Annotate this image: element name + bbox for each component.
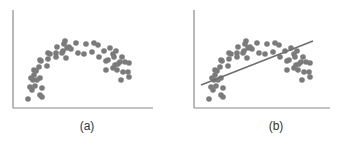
- data-point: [220, 94, 226, 100]
- data-point: [226, 50, 232, 56]
- data-point: [244, 55, 250, 61]
- data-point: [264, 41, 270, 47]
- data-point: [68, 46, 74, 52]
- data-point: [105, 57, 111, 63]
- data-point: [63, 55, 69, 61]
- data-point: [44, 63, 50, 69]
- data-point: [103, 67, 109, 73]
- chart-panel-a: (a): [0, 0, 174, 141]
- data-point: [53, 50, 59, 56]
- data-point: [37, 75, 43, 81]
- data-point: [81, 51, 87, 57]
- data-point: [111, 54, 117, 60]
- data-point: [37, 57, 43, 63]
- data-point: [212, 67, 218, 73]
- data-point: [234, 50, 240, 56]
- data-point: [218, 57, 224, 63]
- data-point: [226, 56, 232, 62]
- data-point: [45, 56, 51, 62]
- data-point: [75, 50, 81, 56]
- data-point: [256, 50, 262, 56]
- data-point: [284, 67, 290, 73]
- data-point: [300, 54, 306, 60]
- data-point: [126, 74, 132, 80]
- data-point: [125, 69, 131, 75]
- data-point: [39, 85, 45, 91]
- data-point: [292, 54, 298, 60]
- data-point: [295, 67, 301, 73]
- data-point: [306, 69, 312, 75]
- data-point: [119, 54, 125, 60]
- data-point: [39, 94, 45, 100]
- data-point: [220, 85, 226, 91]
- data-point: [299, 77, 305, 83]
- caption-a: (a): [0, 119, 174, 133]
- data-point: [270, 49, 276, 55]
- data-point: [262, 51, 268, 57]
- data-point: [208, 84, 214, 90]
- data-point: [83, 41, 89, 47]
- data-point: [95, 42, 101, 48]
- data-point: [118, 77, 124, 83]
- caption-b: (b): [189, 119, 348, 133]
- data-point: [120, 69, 126, 75]
- data-point: [301, 69, 307, 75]
- data-point: [96, 54, 102, 60]
- data-point: [89, 49, 95, 55]
- data-point: [276, 42, 282, 48]
- data-point: [254, 40, 260, 46]
- data-point: [101, 48, 107, 54]
- data-point: [114, 67, 120, 73]
- data-point: [206, 96, 212, 102]
- data-point: [217, 64, 223, 70]
- data-point: [294, 48, 300, 54]
- data-point: [62, 38, 68, 44]
- data-point: [27, 84, 33, 90]
- data-point: [73, 40, 79, 46]
- data-point: [286, 57, 292, 63]
- data-point: [117, 59, 123, 65]
- data-point: [307, 74, 313, 80]
- chart-panel-b: (b): [174, 0, 348, 141]
- data-point: [298, 59, 304, 65]
- data-point: [31, 67, 37, 73]
- data-point: [307, 60, 313, 66]
- data-point: [31, 72, 37, 78]
- data-point: [25, 96, 31, 102]
- data-point: [113, 48, 119, 54]
- data-point: [36, 64, 42, 70]
- data-point: [212, 72, 218, 78]
- data-point: [225, 63, 231, 69]
- data-point: [45, 50, 51, 56]
- data-point: [107, 45, 113, 51]
- data-point: [249, 46, 255, 52]
- data-point: [54, 44, 60, 50]
- data-point: [243, 38, 249, 44]
- data-point: [235, 44, 241, 50]
- data-point: [213, 83, 219, 89]
- data-point: [126, 60, 132, 66]
- data-point: [32, 83, 38, 89]
